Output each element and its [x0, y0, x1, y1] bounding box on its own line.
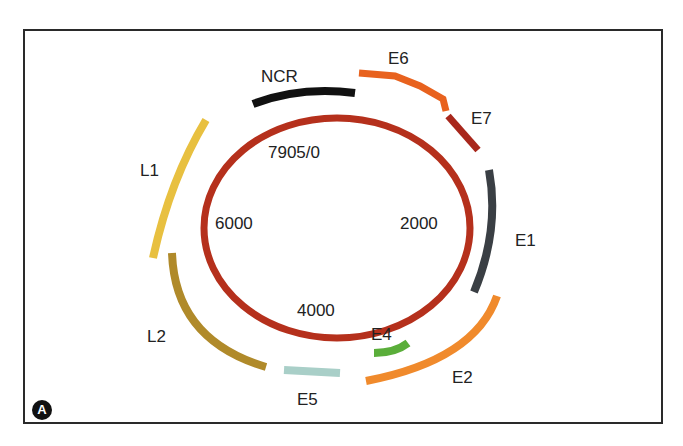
label-l1: L1 — [140, 161, 159, 180]
region-l1 — [153, 120, 206, 258]
label-e2: E2 — [452, 368, 473, 387]
panel-label-badge: A — [32, 400, 52, 420]
label-l2: L2 — [147, 327, 166, 346]
label-ncr: NCR — [261, 67, 298, 86]
label-e5: E5 — [297, 390, 318, 409]
label-e6: E6 — [388, 49, 409, 68]
region-e1 — [474, 170, 492, 292]
region-e6 — [359, 73, 446, 111]
hpv-genome-map: NCR E6 E7 E1 E2 E4 E5 L2 L1 7905/0 2000 … — [0, 0, 683, 446]
position-right: 2000 — [400, 214, 438, 233]
label-e4: E4 — [371, 325, 392, 344]
region-e5 — [284, 370, 340, 373]
region-ncr — [253, 91, 355, 104]
label-e7: E7 — [471, 109, 492, 128]
label-e1: E1 — [515, 231, 536, 250]
position-bottom: 4000 — [297, 301, 335, 320]
position-top: 7905/0 — [268, 143, 320, 162]
region-e4 — [374, 343, 408, 353]
position-left: 6000 — [215, 214, 253, 233]
